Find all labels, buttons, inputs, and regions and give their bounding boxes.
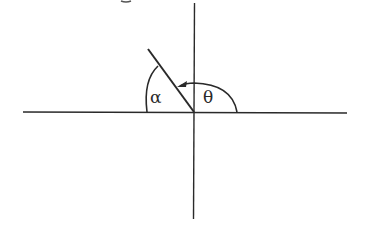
theta-arrowhead-icon: [177, 81, 187, 87]
theta-label: θ: [203, 89, 213, 106]
x-axis: [23, 112, 347, 113]
cutoff-text-fragment: [121, 1, 131, 2]
alpha-label: α: [150, 89, 161, 106]
angle-diagram: α θ: [0, 0, 371, 225]
diagram-canvas: [0, 0, 371, 225]
